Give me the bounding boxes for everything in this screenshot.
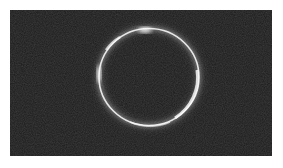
left-knot xyxy=(97,65,102,83)
top-knot xyxy=(138,27,152,33)
ring-graphic xyxy=(10,10,272,156)
ring-photo xyxy=(10,10,272,156)
